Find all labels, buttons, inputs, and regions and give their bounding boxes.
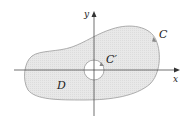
- inner-curve-label: C′: [106, 53, 117, 66]
- y-axis-label: y: [83, 9, 90, 19]
- y-axis-arrow-icon: [92, 11, 97, 17]
- outer-curve-label: C: [159, 28, 168, 41]
- x-axis-arrow-icon: [174, 68, 180, 73]
- region-label: D: [56, 79, 66, 92]
- green-theorem-diagram: y x C C′ D: [0, 0, 192, 127]
- x-axis-label: x: [173, 74, 178, 84]
